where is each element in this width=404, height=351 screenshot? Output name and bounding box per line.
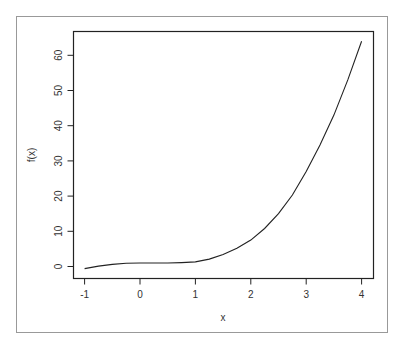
- x-tick-label: -1: [80, 289, 89, 300]
- x-tick-label: 3: [303, 289, 309, 300]
- x-axis-label: x: [221, 312, 226, 323]
- y-tick-label: 60: [53, 49, 64, 61]
- y-tick-label: 50: [53, 85, 64, 97]
- y-tick-label: 40: [53, 120, 64, 132]
- y-tick-label: 10: [53, 225, 64, 237]
- x-tick-label: 2: [248, 289, 254, 300]
- x-tick-label: 4: [359, 289, 365, 300]
- y-tick-label: 30: [53, 155, 64, 167]
- x-tick-label: 1: [193, 289, 199, 300]
- y-tick-label: 20: [53, 190, 64, 202]
- y-axis-label: f(x): [26, 148, 37, 162]
- chart: -101234 0102030405060 x f(x): [0, 0, 404, 351]
- x-tick-label: 0: [137, 289, 143, 300]
- outer-frame: [17, 17, 388, 333]
- y-tick-label: 0: [53, 263, 64, 269]
